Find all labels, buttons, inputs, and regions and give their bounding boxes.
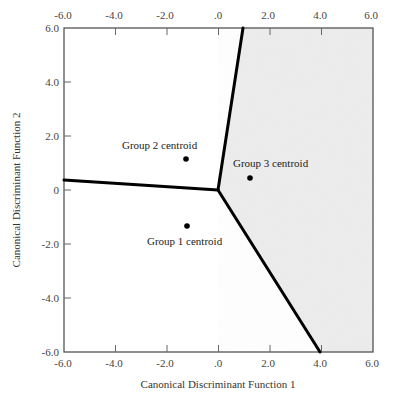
- svg-text:-2.0: -2.0: [42, 238, 60, 250]
- svg-text:-2.0: -2.0: [156, 9, 174, 21]
- boundary-left: [64, 180, 218, 190]
- svg-text:6.0: 6.0: [45, 22, 59, 34]
- group3-centroid-label: Group 3 centroid: [233, 157, 309, 169]
- svg-text:6.0: 6.0: [365, 357, 379, 369]
- svg-text:0: 0: [54, 184, 60, 196]
- svg-text:.0: .0: [214, 357, 223, 369]
- x-axis-bottom-labels: -6.0 -4.0 -2.0 .0 2.0 4.0 6.0: [54, 357, 379, 369]
- svg-text:2.0: 2.0: [261, 9, 275, 21]
- svg-text:4.0: 4.0: [313, 9, 327, 21]
- svg-text:-6.0: -6.0: [54, 9, 72, 21]
- svg-text:-4.0: -4.0: [42, 292, 60, 304]
- svg-text:2.0: 2.0: [261, 357, 275, 369]
- group1-centroid-label: Group 1 centroid: [147, 235, 223, 247]
- group2-centroid-label: Group 2 centroid: [122, 139, 198, 151]
- x-axis-top-labels: -6.0 -4.0 -2.0 .0 2.0 4.0 6.0: [54, 9, 378, 21]
- x-axis-title: Canonical Discriminant Function 1: [141, 378, 296, 390]
- svg-text:.0: .0: [214, 9, 223, 21]
- svg-text:4.0: 4.0: [45, 76, 59, 88]
- svg-text:-4.0: -4.0: [105, 357, 123, 369]
- group1-centroid-marker: [184, 223, 190, 229]
- svg-text:-2.0: -2.0: [156, 357, 174, 369]
- svg-text:-6.0: -6.0: [54, 357, 72, 369]
- svg-text:4.0: 4.0: [313, 357, 327, 369]
- svg-text:-6.0: -6.0: [42, 346, 60, 358]
- svg-text:2.0: 2.0: [45, 130, 59, 142]
- y-axis-title: Canonical Discriminant Function 2: [10, 113, 22, 268]
- group3-centroid-marker: [247, 175, 253, 181]
- svg-text:-4.0: -4.0: [105, 9, 123, 21]
- territorial-map-chart: Group 2 centroid Group 3 centroid Group …: [0, 0, 395, 404]
- group2-centroid-marker: [183, 156, 189, 162]
- svg-text:6.0: 6.0: [364, 9, 378, 21]
- x-axis-bottom-ticks: [116, 345, 322, 352]
- y-axis-ticks: [64, 82, 71, 298]
- y-axis-labels: 6.0 4.0 2.0 0 -2.0 -4.0 -6.0: [42, 22, 60, 358]
